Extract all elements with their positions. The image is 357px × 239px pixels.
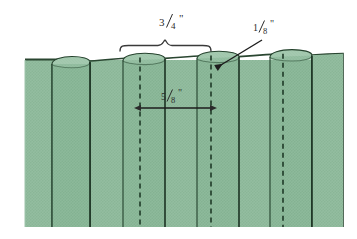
pleat-3: [197, 51, 239, 227]
stitch-spacing-numerator: 5: [161, 91, 166, 102]
pleat-width-denominator: 4: [171, 21, 176, 31]
pleat-1-shadow: [52, 64, 90, 227]
pleat-2: [123, 53, 165, 227]
fold-depth-denominator: 8: [263, 26, 267, 36]
pleat-diagram-figure: 3 4 " 1 8 " 5 8 ": [0, 0, 357, 239]
brace-path: [120, 40, 211, 51]
pleat-width-brace: [120, 40, 211, 51]
stitch-spacing-unit: ": [178, 87, 182, 98]
pleat-width-unit: ": [179, 12, 184, 24]
pleat-4-shadow: [270, 55, 312, 227]
fold-depth-label: 1 8 ": [253, 18, 274, 36]
pleat-width-label: 3 4 ": [159, 12, 184, 31]
fold-depth-unit: ": [270, 18, 274, 29]
pleat-diagram-svg: 3 4 " 1 8 " 5 8 ": [0, 0, 357, 239]
pleat-2-shadow: [123, 59, 165, 227]
fabric-panels: [25, 50, 343, 227]
pleat-1: [52, 57, 90, 228]
fabric-right-panel: [312, 54, 343, 227]
pleat-width-numerator: 3: [159, 16, 165, 28]
fold-depth-numerator: 1: [253, 22, 258, 33]
pleat-4: [270, 50, 312, 227]
stitch-spacing-denominator: 8: [171, 95, 175, 105]
pleat-3-shadow: [197, 57, 239, 227]
